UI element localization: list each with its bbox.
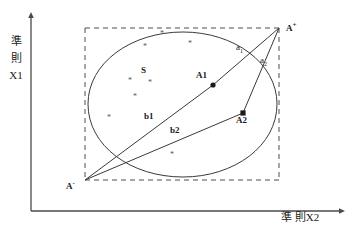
point-label-a-plus-sup: +: [293, 21, 297, 29]
point-label-a-plus: A+: [286, 22, 297, 33]
axes-group: [28, 12, 345, 214]
point-label-a2: A2: [236, 116, 247, 125]
region-label-s: S: [141, 66, 146, 75]
line-a2: [243, 28, 279, 113]
scatter-asterisk: *: [143, 42, 147, 51]
figure-canvas: * * * * * * * * 準 則 X1 準 則X2 A+ A- A1 A2…: [0, 0, 351, 230]
segment-label-b1: b1: [144, 112, 154, 121]
segment-label-a1: a1: [236, 43, 243, 54]
scatter-asterisk: *: [133, 92, 137, 101]
plot-svg: * * * * * * * *: [0, 0, 351, 230]
x-axis-arrow: [339, 208, 345, 214]
dashed-bounding-box: [85, 28, 279, 180]
line-b1: [85, 85, 213, 180]
y-axis-label-line: X1: [6, 70, 26, 81]
connector-lines: [85, 28, 279, 180]
segment-label-b2: b2: [170, 126, 180, 135]
segment-label-a2-sub: 2: [264, 61, 267, 67]
line-a1: [213, 28, 279, 85]
point-label-a-minus: A-: [66, 180, 75, 191]
segment-label-a1-sub: 1: [240, 48, 243, 54]
y-axis-label-line: 準: [6, 36, 26, 47]
scatter-asterisk: *: [188, 39, 192, 48]
scatter-asterisk: *: [160, 29, 164, 38]
scatter-asterisk: *: [170, 150, 174, 159]
segment-label-a2: a2: [260, 56, 267, 67]
y-axis-label-line: 則: [6, 53, 26, 64]
y-axis-arrow: [28, 12, 34, 18]
point-label-a1: A1: [196, 71, 207, 80]
scatter-asterisk: *: [128, 76, 132, 85]
scatter-asterisk: *: [148, 78, 152, 87]
scatter-asterisk: *: [107, 113, 111, 122]
x-axis-label: 準 則X2: [281, 212, 319, 223]
marker-a1: [210, 82, 215, 87]
point-label-a-minus-sup: -: [73, 179, 75, 187]
line-b2: [85, 113, 243, 180]
y-axis-label: 準 則 X1: [6, 36, 26, 87]
